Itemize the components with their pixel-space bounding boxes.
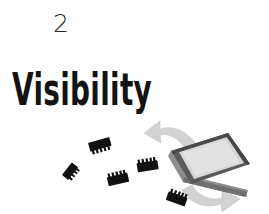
- chapter-number: 2: [53, 10, 93, 38]
- chip-lower-middle: [106, 169, 129, 186]
- chip-upper-left: [88, 137, 113, 155]
- chip-middle: [136, 157, 159, 173]
- chapter-opener-page: 2 Visibility: [0, 0, 269, 214]
- chapter-title: Visibility: [12, 66, 152, 114]
- chips-and-tray-illustration: [0, 112, 269, 214]
- chip-left: [62, 162, 81, 181]
